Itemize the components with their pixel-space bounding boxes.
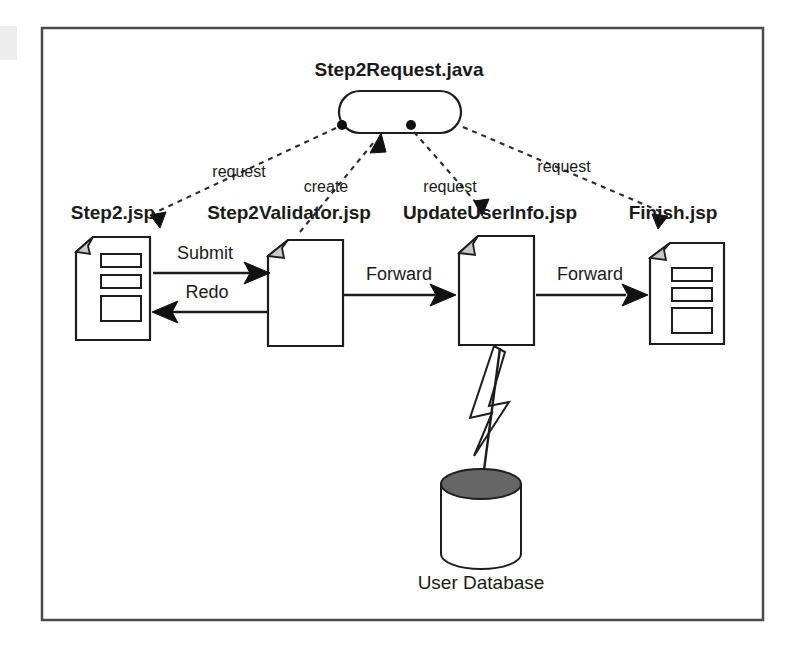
- form-field-1: [672, 268, 712, 281]
- form-field-2: [672, 288, 712, 301]
- object-step2request: [339, 91, 461, 133]
- flow-label-forward-2: Forward: [557, 264, 623, 284]
- dependency-label-step2-request: request: [212, 163, 266, 180]
- link-dot-right: [406, 120, 416, 130]
- page-label-update: UpdateUserInfo.jsp: [403, 202, 577, 223]
- page-icon-finish: [650, 243, 724, 344]
- form-field-3: [101, 296, 141, 321]
- page-label-finish: Finish.jsp: [629, 202, 718, 223]
- page-label-step2: Step2.jsp: [71, 202, 155, 223]
- cylinder-top: [441, 469, 521, 499]
- lightning-bolt-icon: [470, 346, 509, 456]
- form-field-2: [101, 275, 141, 288]
- scan-artifact: [0, 26, 17, 60]
- datastore-user-database: [441, 469, 521, 569]
- flow-label-redo: Redo: [185, 282, 228, 302]
- dependency-label-validator-create: create: [304, 178, 349, 195]
- flow-label-forward-1: Forward: [366, 264, 432, 284]
- uml-collaboration-diagram: Step2Request.java request create request…: [0, 0, 799, 647]
- page-icon-step2: [76, 237, 150, 340]
- form-field-3: [672, 308, 712, 333]
- page-icon-update: [459, 236, 534, 345]
- dependency-label-update-request: request: [423, 178, 477, 195]
- page-label-validator: Step2Validator.jsp: [207, 202, 371, 223]
- page-icon-validator: [268, 240, 343, 346]
- flow-label-submit: Submit: [177, 243, 233, 263]
- link-dot-left: [337, 120, 347, 130]
- diagram-canvas: Step2Request.java request create request…: [0, 0, 799, 647]
- dependency-label-finish-request: request: [537, 158, 591, 175]
- datastore-label: User Database: [418, 572, 545, 593]
- form-field-1: [101, 254, 141, 267]
- object-label-step2request: Step2Request.java: [315, 59, 484, 80]
